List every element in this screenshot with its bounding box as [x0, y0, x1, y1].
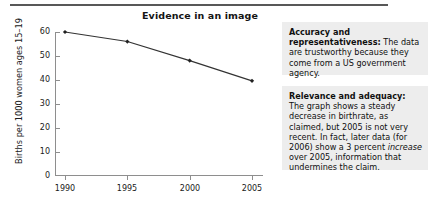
- note-relevance-lead: Relevance and adequacy:: [289, 91, 406, 101]
- data-point-marker: [188, 59, 192, 63]
- note-relevance-emphasis: increase: [388, 142, 422, 152]
- figure-title: Evidence in an image: [60, 10, 340, 21]
- data-point-marker: [125, 39, 129, 43]
- data-point-marker: [63, 30, 67, 34]
- note-accuracy: Accuracy and representativeness: The dat…: [282, 22, 428, 75]
- header-divider-rule: [10, 4, 388, 6]
- note-relevance-body-second: over 2005, information that undermines t…: [289, 152, 401, 172]
- data-point-marker: [250, 79, 254, 83]
- line-series: [0, 24, 278, 206]
- note-relevance: Relevance and adequacy: The graph shows …: [282, 86, 428, 170]
- note-accuracy-lead: Accuracy and representativeness:: [289, 27, 381, 47]
- figure-root: Evidence in an image Births per 1000 wom…: [0, 0, 428, 206]
- chart-container: Births per 1000 women ages 15–19 60 50 4…: [0, 24, 278, 206]
